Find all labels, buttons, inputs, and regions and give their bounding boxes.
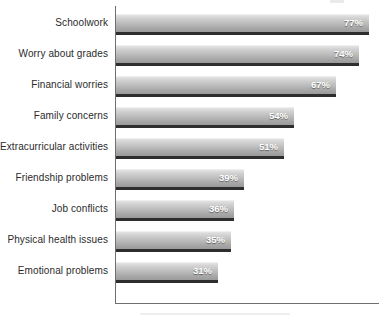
bar-value-label: 74% bbox=[334, 45, 353, 63]
plot-area: Schoolwork77%Worry about grades74%Financ… bbox=[0, 0, 379, 317]
bar-value-label: 51% bbox=[259, 138, 278, 156]
bar-container: 31% bbox=[116, 262, 218, 283]
bar-shadow-bottom bbox=[116, 125, 294, 128]
clipped-bottom-artifact bbox=[140, 313, 290, 315]
bar-shadow-bottom bbox=[116, 63, 359, 66]
bar-row: Emotional problems31% bbox=[0, 262, 379, 284]
bar-shadow-bottom bbox=[116, 280, 218, 283]
bar-row: Extracurricular activities51% bbox=[0, 138, 379, 160]
bar bbox=[116, 14, 369, 32]
bar-value-label: 35% bbox=[206, 231, 225, 249]
bar-container: 35% bbox=[116, 231, 231, 252]
bar bbox=[116, 45, 359, 63]
bar-container: 67% bbox=[116, 76, 336, 97]
bar-container: 39% bbox=[116, 169, 244, 190]
bar-shadow-bottom bbox=[116, 94, 336, 97]
bar-value-label: 31% bbox=[193, 262, 212, 280]
bar-value-label: 67% bbox=[311, 76, 330, 94]
bar-row: Friendship problems39% bbox=[0, 169, 379, 191]
category-label: Job conflicts bbox=[0, 200, 108, 218]
bar-value-label: 39% bbox=[219, 169, 238, 187]
bar-row: Family concerns54% bbox=[0, 107, 379, 129]
bar-shadow-bottom bbox=[116, 156, 284, 159]
bar bbox=[116, 76, 336, 94]
category-label: Financial worries bbox=[0, 76, 108, 94]
bar-shadow-bottom bbox=[116, 187, 244, 190]
bar-value-label: 36% bbox=[209, 200, 228, 218]
bar-row: Financial worries67% bbox=[0, 76, 379, 98]
value-axis-line bbox=[115, 303, 379, 304]
category-label: Family concerns bbox=[0, 107, 108, 125]
bar bbox=[116, 107, 294, 125]
bar-shadow-bottom bbox=[116, 249, 231, 252]
bar-shadow-bottom bbox=[116, 32, 369, 35]
category-label: Emotional problems bbox=[0, 262, 108, 280]
category-label: Schoolwork bbox=[0, 14, 108, 32]
bar-shadow-bottom bbox=[116, 218, 234, 221]
clipped-top-artifact bbox=[330, 0, 344, 3]
bar-container: 74% bbox=[116, 45, 359, 66]
bar-value-label: 77% bbox=[344, 14, 363, 32]
bar-container: 54% bbox=[116, 107, 294, 128]
bar-row: Job conflicts36% bbox=[0, 200, 379, 222]
category-label: Worry about grades bbox=[0, 45, 108, 63]
bar-value-label: 54% bbox=[269, 107, 288, 125]
category-label: Extracurricular activities bbox=[0, 138, 108, 156]
bar-chart: Schoolwork77%Worry about grades74%Financ… bbox=[0, 0, 379, 317]
category-label: Physical health issues bbox=[0, 231, 108, 249]
bar-row: Schoolwork77% bbox=[0, 14, 379, 36]
bar-row: Physical health issues35% bbox=[0, 231, 379, 253]
category-label: Friendship problems bbox=[0, 169, 108, 187]
bar-container: 51% bbox=[116, 138, 284, 159]
bar-container: 36% bbox=[116, 200, 234, 221]
bar-row: Worry about grades74% bbox=[0, 45, 379, 67]
bar-container: 77% bbox=[116, 14, 369, 35]
